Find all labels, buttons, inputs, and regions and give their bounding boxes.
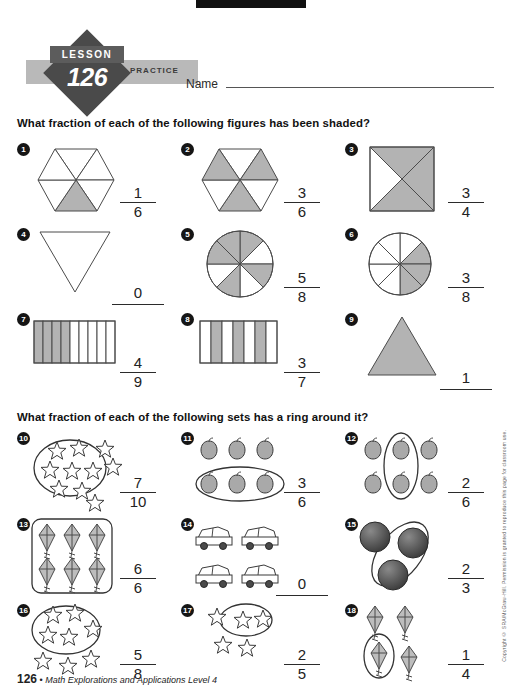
problem-2: 2 3 6	[174, 139, 338, 224]
denominator: 5	[274, 666, 330, 682]
figure-triangle-up-filled	[362, 311, 446, 389]
section-heading-sets: What fraction of each of the following s…	[17, 411, 368, 423]
denominator: 8	[274, 289, 330, 305]
numerator: 7	[110, 475, 166, 491]
problem-number: 6	[345, 228, 358, 241]
answer-fraction[interactable]: 2 3	[438, 561, 494, 596]
numerator: 4	[110, 355, 166, 371]
worksheet-page: LESSON 126 PRACTICE Name What fraction o…	[0, 0, 513, 700]
answer-fraction[interactable]: 2 6	[438, 475, 494, 510]
problem-1: 1 1	[10, 139, 174, 224]
answer-fraction[interactable]: 1 4	[438, 647, 494, 682]
answer-fraction[interactable]: 4 9	[110, 355, 166, 390]
problem-4: 4 0	[10, 224, 174, 309]
numerator: 3	[274, 355, 330, 371]
problem-row: 10	[10, 428, 503, 514]
name-field[interactable]: Name	[186, 74, 496, 92]
page-footer: 126 • Math Explorations and Applications…	[17, 672, 217, 686]
answer-fraction[interactable]: 2 5	[274, 647, 330, 682]
answer-whole[interactable]: 0	[110, 285, 166, 305]
answer-fraction[interactable]: 6 6	[110, 561, 166, 596]
problem-5: 5	[174, 224, 338, 309]
footer-title: Math Explorations and Applications Level…	[45, 675, 217, 685]
numerator: 3	[274, 475, 330, 491]
denominator: 4	[438, 204, 494, 220]
problem-number: 5	[181, 228, 194, 241]
answer-line	[276, 595, 328, 596]
whole-value: 0	[274, 576, 330, 592]
answer-fraction[interactable]: 1 6	[110, 185, 166, 220]
answer-fraction[interactable]: 5 8	[274, 270, 330, 305]
denominator: 6	[438, 494, 494, 510]
numerator: 5	[274, 270, 330, 286]
denominator: 8	[438, 289, 494, 305]
answer-fraction[interactable]: 3 6	[274, 475, 330, 510]
problem-number: 1	[17, 143, 30, 156]
figure-triangle-down-empty	[34, 226, 118, 304]
problem-number: 3	[345, 143, 358, 156]
problem-12: 12	[338, 428, 502, 514]
problem-grid-figures: 1 1	[10, 139, 503, 394]
page-top-bar	[196, 0, 306, 8]
numerator: 5	[110, 647, 166, 663]
whole-value: 1	[438, 370, 494, 386]
numerator: 6	[110, 561, 166, 577]
denominator: 7	[274, 374, 330, 390]
copyright-notice: Copyright © SRA/McGraw-Hill. Permission …	[501, 430, 511, 662]
problem-row: 1 1	[10, 139, 503, 224]
answer-fraction[interactable]: 3 6	[274, 185, 330, 220]
problem-row: 7	[10, 309, 503, 394]
problem-14: 14	[174, 514, 338, 600]
problem-11: 11	[174, 428, 338, 514]
problem-6: 6	[338, 224, 502, 309]
denominator: 6	[110, 580, 166, 596]
figure-circle-8-sectors-right	[362, 226, 446, 304]
numerator: 2	[438, 561, 494, 577]
denominator: 10	[110, 494, 166, 510]
denominator: 6	[274, 494, 330, 510]
lesson-label: LESSON	[50, 46, 124, 63]
answer-fraction[interactable]: 3 4	[438, 185, 494, 220]
answer-fraction[interactable]: 3 8	[438, 270, 494, 305]
lesson-number: 126	[50, 62, 124, 92]
numerator: 3	[438, 270, 494, 286]
denominator: 3	[438, 580, 494, 596]
numerator: 3	[438, 185, 494, 201]
figure-circle-8-sectors	[198, 226, 282, 304]
problem-18: 18	[338, 600, 502, 686]
numerator: 3	[274, 185, 330, 201]
answer-fraction[interactable]: 7 10	[110, 475, 166, 510]
denominator: 6	[110, 204, 166, 220]
problem-8: 8	[174, 309, 338, 394]
problem-7: 7	[10, 309, 174, 394]
name-label: Name	[186, 77, 218, 91]
problem-number: 9	[345, 313, 358, 326]
figure-square-diagonals	[362, 141, 446, 219]
numerator: 1	[110, 185, 166, 201]
problem-row: 13	[10, 514, 503, 600]
problem-number: 4	[17, 228, 30, 241]
problem-row: 4 0 5	[10, 224, 503, 309]
answer-whole[interactable]: 1	[438, 370, 494, 390]
problem-9: 9 1	[338, 309, 502, 394]
problem-number: 2	[181, 143, 194, 156]
figure-hexagon-6-alternating	[198, 141, 282, 219]
numerator: 2	[274, 647, 330, 663]
answer-whole[interactable]: 0	[274, 576, 330, 596]
name-writing-line[interactable]	[226, 87, 494, 88]
section-heading-figures: What fraction of each of the following f…	[17, 117, 370, 129]
problem-15: 15	[338, 514, 502, 600]
whole-value: 0	[110, 285, 166, 301]
denominator: 4	[438, 666, 494, 682]
figure-hexagon-6	[34, 141, 118, 219]
denominator: 9	[110, 374, 166, 390]
problem-10: 10	[10, 428, 174, 514]
numerator: 2	[438, 475, 494, 491]
page-number: 126	[17, 672, 37, 686]
problem-grid-sets: 10	[10, 428, 503, 686]
answer-fraction[interactable]: 3 7	[274, 355, 330, 390]
denominator: 6	[274, 204, 330, 220]
practice-label: PRACTICE	[130, 66, 179, 75]
problem-3: 3 3 4	[338, 139, 502, 224]
answer-line	[440, 389, 492, 390]
